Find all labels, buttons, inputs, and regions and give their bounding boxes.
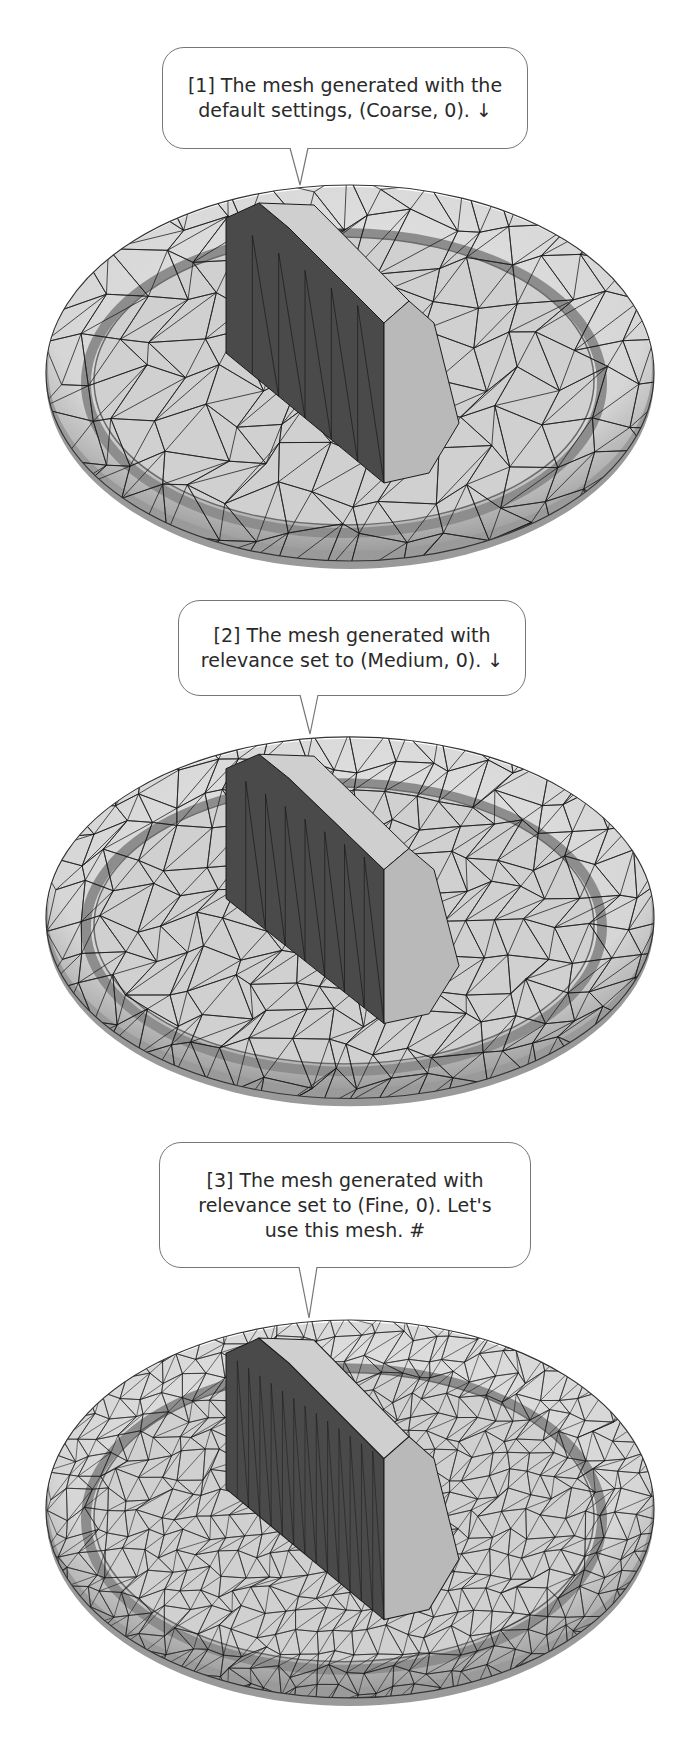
callout-pointer (288, 147, 312, 187)
callout-text: [2] The mesh generated with relevance se… (201, 623, 503, 673)
callout-step-3: [3] The mesh generated with relevance se… (159, 1142, 531, 1268)
callout-text: [3] The mesh generated with relevance se… (198, 1168, 492, 1243)
callout-pointer (297, 1266, 321, 1320)
mesh-medium-figure (44, 735, 656, 1110)
callout-step-1: [1] The mesh generated with the default … (162, 47, 528, 149)
callout-step-2: [2] The mesh generated with relevance se… (178, 600, 526, 696)
mesh-fine-figure (44, 1318, 656, 1710)
callout-pointer (298, 694, 322, 736)
mesh-coarse-figure (44, 183, 656, 573)
callout-text: [1] The mesh generated with the default … (188, 73, 502, 123)
